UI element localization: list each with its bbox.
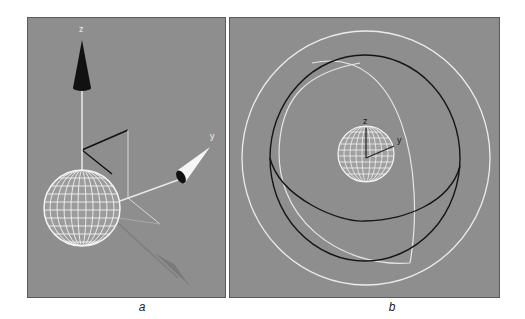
panel-a-viewport: z y (27, 17, 226, 298)
panel-b-scene: z y (230, 18, 499, 297)
panel-a-scene: z y (28, 18, 225, 297)
z-axis-arrow-icon (73, 40, 91, 178)
panel-b-viewport: z y (229, 17, 500, 298)
y-axis-arrow-icon (120, 147, 210, 201)
panel-a-caption: a (132, 300, 152, 314)
panel-b-caption: b (382, 300, 402, 314)
z-axis-label: z (79, 24, 84, 34)
y-axis-label: y (210, 131, 215, 141)
wireframe-sphere-icon (38, 170, 128, 246)
wireframe-sphere-icon (330, 126, 400, 182)
z-axis-label: z (363, 116, 368, 126)
y-axis-label: y (397, 135, 402, 145)
shadow-arrow-icon (118, 223, 190, 286)
